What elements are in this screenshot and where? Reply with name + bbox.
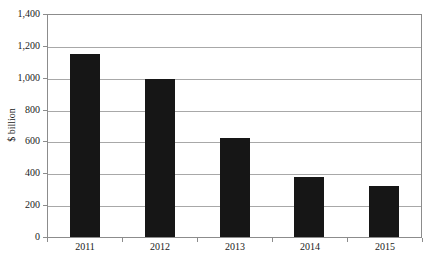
y-tick-label: 1,400 bbox=[0, 8, 40, 20]
y-tick-mark bbox=[43, 205, 47, 206]
bar-2012 bbox=[145, 79, 175, 237]
y-tick-label: 200 bbox=[0, 199, 40, 211]
y-tick-mark bbox=[43, 14, 47, 15]
x-tick-mark bbox=[122, 238, 123, 242]
y-tick-label: 600 bbox=[0, 135, 40, 147]
y-tick-mark bbox=[43, 141, 47, 142]
x-tick-mark bbox=[347, 238, 348, 242]
bar-2015 bbox=[369, 186, 399, 237]
x-tick-mark bbox=[422, 238, 423, 242]
y-tick-label: 800 bbox=[0, 104, 40, 116]
x-axis-label-2013: 2013 bbox=[205, 241, 265, 253]
x-axis-label-2015: 2015 bbox=[355, 241, 415, 253]
y-tick-label: 1,200 bbox=[0, 40, 40, 52]
bar-2013 bbox=[220, 138, 250, 237]
x-tick-mark bbox=[272, 238, 273, 242]
y-tick-label: 1,000 bbox=[0, 72, 40, 84]
y-tick-label: 400 bbox=[0, 167, 40, 179]
x-axis-label-2011: 2011 bbox=[55, 241, 115, 253]
y-tick-mark bbox=[43, 46, 47, 47]
bar-2014 bbox=[294, 177, 324, 237]
y-tick-label: 0 bbox=[0, 231, 40, 243]
bar-2011 bbox=[70, 54, 100, 237]
plot-area bbox=[47, 14, 422, 238]
x-tick-mark bbox=[197, 238, 198, 242]
x-axis-label-2012: 2012 bbox=[130, 241, 190, 253]
bar-chart: $ billion 02004006008001,0001,2001,40020… bbox=[0, 0, 425, 255]
y-axis-title: $ billion bbox=[6, 25, 18, 225]
y-tick-mark bbox=[43, 173, 47, 174]
x-axis-label-2014: 2014 bbox=[280, 241, 340, 253]
gridline bbox=[48, 79, 421, 80]
x-tick-mark bbox=[47, 238, 48, 242]
y-tick-mark bbox=[43, 78, 47, 79]
gridline bbox=[48, 111, 421, 112]
gridline bbox=[48, 47, 421, 48]
y-tick-mark bbox=[43, 110, 47, 111]
